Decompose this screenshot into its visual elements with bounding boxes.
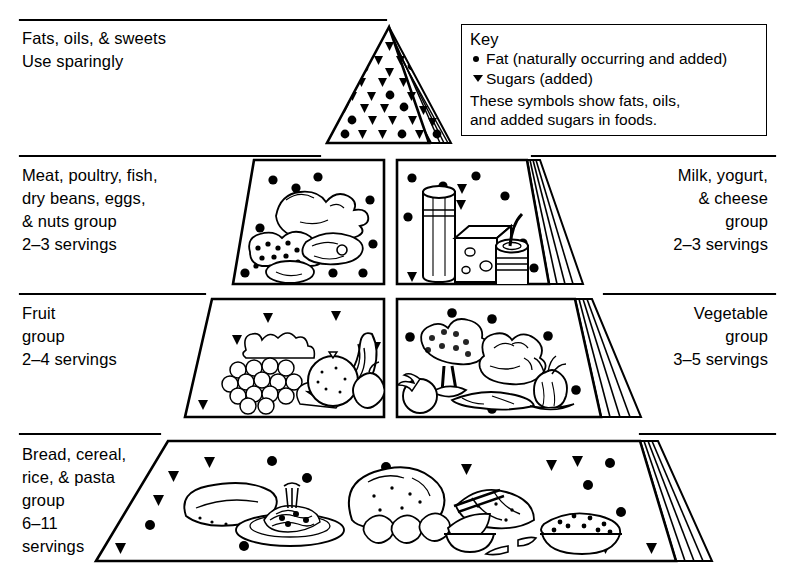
tier-label-bread-group: Bread, cereal, rice, & pasta group 6–11 … — [22, 443, 126, 558]
tier-label-milk-group: Milk, yogurt, & cheese group 2–3 serving… — [673, 164, 768, 256]
tier-label-fruit-group: Fruit group 2–4 servings — [22, 302, 117, 371]
key-legend-box: Key Fat (naturally occurring and added) … — [461, 24, 767, 136]
tier-fats-oils-sweets — [325, 27, 451, 143]
key-entry-sugars-label: Sugars (added) — [486, 69, 593, 89]
food-guide-pyramid: Fats, oils, & sweets Use sparingly Meat,… — [0, 0, 790, 582]
tier-meat-group — [233, 160, 404, 284]
key-entry-fat: Fat (naturally occurring and added) — [470, 49, 759, 69]
key-entry-sugars: Sugars (added) — [470, 69, 759, 89]
tier-label-meat-group: Meat, poultry, fish, dry beans, eggs, & … — [22, 164, 158, 256]
tier-bread-group — [93, 441, 712, 561]
tier-milk-group — [397, 160, 583, 293]
key-entry-fat-label: Fat (naturally occurring and added) — [486, 49, 727, 69]
tier-label-fats-oils-sweets: Fats, oils, & sweets Use sparingly — [22, 27, 166, 73]
tier-vegetable-group — [397, 299, 641, 417]
key-title: Key — [470, 29, 759, 49]
sugar-triangle-icon — [470, 69, 486, 89]
key-note: These symbols show fats, oils, and added… — [470, 92, 759, 129]
fat-dot-icon — [470, 49, 486, 69]
tier-label-vegetable-group: Vegetable group 3–5 servings — [673, 302, 768, 371]
tier-fruit-group — [185, 299, 385, 417]
